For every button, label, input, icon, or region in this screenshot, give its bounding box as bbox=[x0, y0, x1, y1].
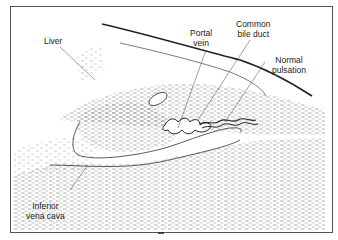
label-inferior-vena-cava: Inferior vena cava bbox=[26, 201, 65, 221]
label-portal-vein: Portal vein bbox=[190, 28, 212, 48]
label-liver: Liver bbox=[44, 36, 62, 46]
label-normal-pulsation: Normal pulsation bbox=[272, 55, 306, 75]
label-common-bile-duct: Common bile duct bbox=[236, 19, 270, 39]
